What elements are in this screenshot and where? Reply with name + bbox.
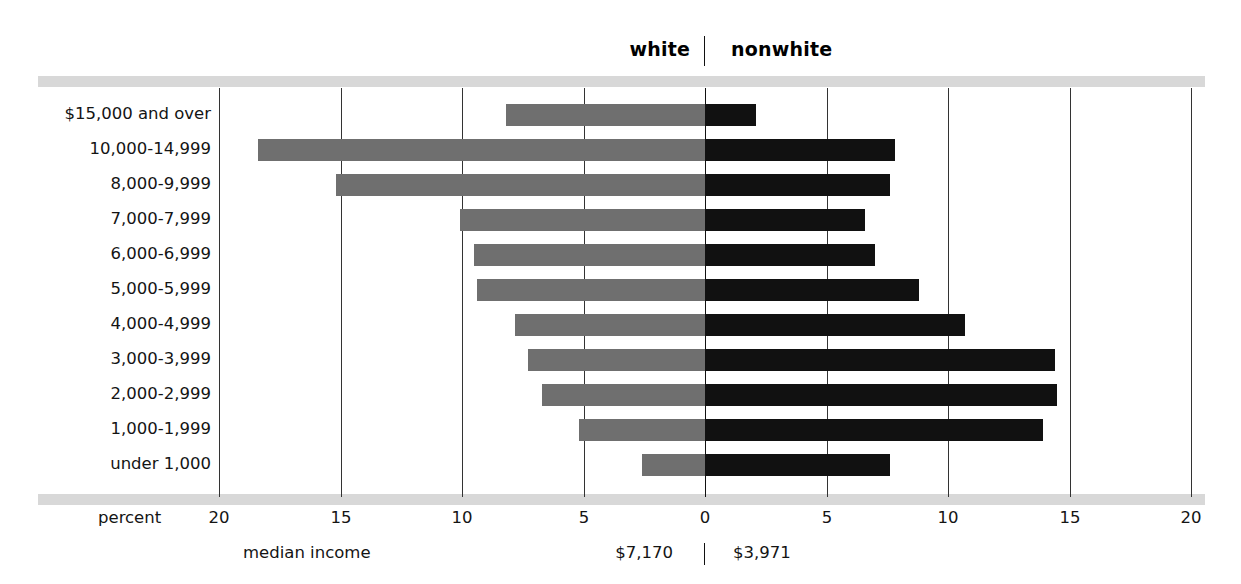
bar-nonwhite xyxy=(705,244,875,266)
chart-row: 4,000-4,999 xyxy=(0,308,1241,343)
bar-nonwhite xyxy=(705,209,865,231)
bar-nonwhite xyxy=(705,384,1057,406)
bar-nonwhite xyxy=(705,419,1043,441)
chart-row: 5,000-5,999 xyxy=(0,273,1241,308)
row-label: 4,000-4,999 xyxy=(0,314,211,333)
bar-white xyxy=(336,174,705,196)
bar-nonwhite xyxy=(705,454,890,476)
chart-row: 2,000-2,999 xyxy=(0,378,1241,413)
chart-row: 6,000-6,999 xyxy=(0,238,1241,273)
bar-white xyxy=(477,279,705,301)
x-tick-label: 5 xyxy=(822,508,833,527)
legend-label-white: white xyxy=(629,38,690,60)
row-label: 10,000-14,999 xyxy=(0,139,211,158)
median-income-label: median income xyxy=(243,543,371,562)
x-axis-label: percent xyxy=(98,508,161,527)
bar-white xyxy=(542,384,705,406)
x-axis: percent 201510505101520 xyxy=(0,508,1241,532)
bar-white xyxy=(258,139,705,161)
median-income-nonwhite-value: $3,971 xyxy=(733,543,791,562)
legend-divider xyxy=(704,36,705,66)
bar-nonwhite xyxy=(705,349,1055,371)
bar-white xyxy=(528,349,705,371)
row-label: under 1,000 xyxy=(0,454,211,473)
top-rail xyxy=(38,76,1205,87)
chart-row: 8,000-9,999 xyxy=(0,168,1241,203)
bar-nonwhite xyxy=(705,104,756,126)
x-tick-label: 20 xyxy=(1181,508,1202,527)
row-label: 5,000-5,999 xyxy=(0,279,211,298)
bar-nonwhite xyxy=(705,139,895,161)
x-tick-label: 5 xyxy=(579,508,590,527)
x-tick-label: 10 xyxy=(938,508,959,527)
row-label: $15,000 and over xyxy=(0,104,211,123)
row-label: 2,000-2,999 xyxy=(0,384,211,403)
legend-label-nonwhite: nonwhite xyxy=(731,38,832,60)
median-income-row: median income $7,170 $3,971 xyxy=(0,543,1241,569)
row-label: 1,000-1,999 xyxy=(0,419,211,438)
row-label: 3,000-3,999 xyxy=(0,349,211,368)
bar-white xyxy=(506,104,705,126)
x-tick-label: 0 xyxy=(700,508,711,527)
row-label: 8,000-9,999 xyxy=(0,174,211,193)
plot-area: $15,000 and over10,000-14,9998,000-9,999… xyxy=(0,88,1241,497)
income-distribution-chart: white nonwhite $15,000 and over10,000-14… xyxy=(0,0,1241,584)
bar-nonwhite xyxy=(705,314,965,336)
x-tick-label: 15 xyxy=(1060,508,1081,527)
bar-white xyxy=(579,419,705,441)
chart-row: 7,000-7,999 xyxy=(0,203,1241,238)
median-divider xyxy=(704,543,705,565)
bar-white xyxy=(642,454,705,476)
bar-white xyxy=(460,209,705,231)
x-tick-label: 10 xyxy=(452,508,473,527)
bar-nonwhite xyxy=(705,279,919,301)
bar-nonwhite xyxy=(705,174,890,196)
chart-row: 1,000-1,999 xyxy=(0,413,1241,448)
bar-white xyxy=(515,314,705,336)
row-label: 6,000-6,999 xyxy=(0,244,211,263)
median-income-white-value: $7,170 xyxy=(615,543,673,562)
chart-row: under 1,000 xyxy=(0,448,1241,483)
chart-row: 3,000-3,999 xyxy=(0,343,1241,378)
x-tick-label: 20 xyxy=(209,508,230,527)
chart-row: 10,000-14,999 xyxy=(0,133,1241,168)
x-tick-label: 15 xyxy=(331,508,352,527)
chart-row: $15,000 and over xyxy=(0,98,1241,133)
bar-white xyxy=(474,244,705,266)
row-label: 7,000-7,999 xyxy=(0,209,211,228)
